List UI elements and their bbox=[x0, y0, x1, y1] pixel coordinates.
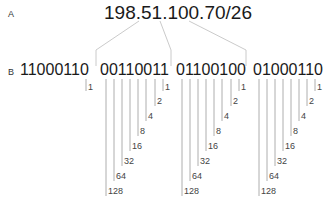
bit-value: 64 bbox=[116, 171, 126, 181]
bit-value: 8 bbox=[293, 126, 298, 136]
bit-value: 4 bbox=[224, 111, 229, 121]
bit-value: 4 bbox=[301, 111, 306, 121]
bit-value: 128 bbox=[108, 186, 123, 196]
bit-value: 32 bbox=[200, 156, 210, 166]
bit-value: 4 bbox=[148, 111, 153, 121]
connector-lines bbox=[96, 21, 246, 66]
bit-value: 128 bbox=[261, 186, 276, 196]
bit-value: 16 bbox=[132, 141, 142, 151]
connector-octet-2 bbox=[96, 21, 139, 66]
bit-value: 1 bbox=[317, 82, 322, 92]
ip-address: 198.51.100.70/26 bbox=[104, 2, 252, 23]
ip-binary-diagram: A B 198.51.100.70/26 11000110 00110011 0… bbox=[0, 0, 323, 202]
bit-value: 128 bbox=[184, 186, 199, 196]
bit-value: 32 bbox=[277, 156, 287, 166]
label-a: A bbox=[8, 9, 14, 19]
bit-value: 2 bbox=[157, 96, 162, 106]
bit-value: 8 bbox=[140, 126, 145, 136]
connector-octet-3 bbox=[160, 21, 171, 66]
bit-value: 1 bbox=[241, 82, 246, 92]
octet-2-binary: 00110011 bbox=[100, 61, 169, 78]
octet-3-bit-values: 1 2 4 8 16 32 64 128 bbox=[182, 79, 246, 196]
bit-value: 2 bbox=[309, 96, 314, 106]
bit-value: 2 bbox=[233, 96, 238, 106]
label-b: B bbox=[8, 67, 14, 77]
octet-4-bit-values: 1 2 4 8 16 32 64 128 bbox=[259, 79, 322, 196]
octet-2-bit-values: 1 2 4 8 16 32 64 128 bbox=[106, 79, 170, 196]
bit-value: 32 bbox=[124, 156, 134, 166]
bit-value: 64 bbox=[269, 171, 279, 181]
bit-value: 16 bbox=[285, 141, 295, 151]
octet-3-binary: 01100100 bbox=[176, 61, 246, 78]
bit-value: 1 bbox=[88, 82, 93, 92]
bit-value: 16 bbox=[208, 141, 218, 151]
octet-4-binary: 01000110 bbox=[253, 61, 323, 78]
octet-1-bit-values: 1 bbox=[86, 79, 93, 92]
bit-value: 1 bbox=[165, 82, 170, 92]
bit-value: 8 bbox=[216, 126, 221, 136]
connector-octet-4 bbox=[189, 21, 246, 66]
bit-value: 64 bbox=[192, 171, 202, 181]
octet-1-binary: 11000110 bbox=[20, 61, 89, 78]
